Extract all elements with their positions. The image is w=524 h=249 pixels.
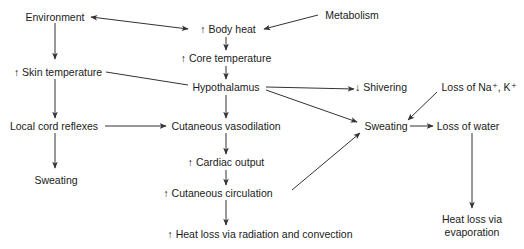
node-core-temperature: ↑ Core temperature <box>181 52 271 64</box>
node-cardiac-output: ↑ Cardiac output <box>188 156 264 168</box>
node-hypothalamus: Hypothalamus <box>192 81 259 93</box>
node-skin-temperature: ↑ Skin temperature <box>14 66 102 78</box>
node-sweating-left: Sweating <box>34 174 77 186</box>
node-local-cord-reflexes: Local cord reflexes <box>10 120 98 132</box>
edge-cut-circulation-to-sweating-center <box>292 133 360 190</box>
node-cutaneous-circulation: ↑ Cutaneous circulation <box>163 187 272 199</box>
node-metabolism: Metabolism <box>325 9 379 21</box>
edge-environment-to-body-heat <box>91 17 188 29</box>
loss-na-k-label: Loss of Na⁺, K⁺ <box>441 81 516 93</box>
edge-skin-temp-to-hypothalamus <box>106 72 188 85</box>
edge-metabolism-to-body-heat <box>264 15 318 29</box>
node-heat-loss-evaporation: Heat loss via evaporation <box>427 213 517 239</box>
edge-loss-na-k-to-sweating-center <box>408 92 437 120</box>
node-loss-of-water: Loss of water <box>437 120 499 132</box>
node-body-heat: ↑ Body heat <box>200 23 255 35</box>
node-sweating-center: Sweating <box>364 120 407 132</box>
node-shivering: ↓ Shivering <box>355 81 407 93</box>
edge-hypothalamus-to-shivering <box>266 87 354 89</box>
edge-hypothalamus-to-sweating-center <box>266 90 357 122</box>
thermoregulation-diagram: Environment ↑ Body heat Metabolism ↑ Cor… <box>0 0 524 249</box>
node-cutaneous-vasodilation: Cutaneous vasodilation <box>171 120 280 132</box>
node-loss-of-na-k: Loss of Na⁺, K⁺ <box>441 81 516 93</box>
node-environment: Environment <box>26 11 85 23</box>
node-heat-loss-radiation-convection: ↑ Heat loss via radiation and convection <box>167 228 352 240</box>
